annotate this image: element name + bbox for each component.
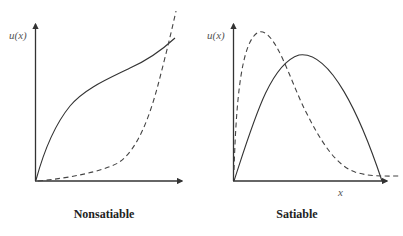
satiable-caption: Satiable [276, 207, 317, 222]
plots-canvas [0, 0, 403, 236]
left-solid-curve [36, 38, 175, 180]
right-dashed-curve [234, 32, 401, 176]
satiable-panel [233, 24, 401, 181]
right-x-axis-label: x [338, 186, 343, 198]
nonsatiable-caption: Nonsatiable [74, 207, 135, 222]
left-dashed-curve [38, 11, 176, 181]
utility-figure: u(x) u(x) x Nonsatiable Satiable [0, 0, 403, 236]
nonsatiable-panel [35, 11, 182, 181]
right-y-axis-label: u(x) [207, 29, 225, 41]
right-solid-curve [234, 55, 382, 181]
left-y-axis-label: u(x) [9, 29, 27, 41]
